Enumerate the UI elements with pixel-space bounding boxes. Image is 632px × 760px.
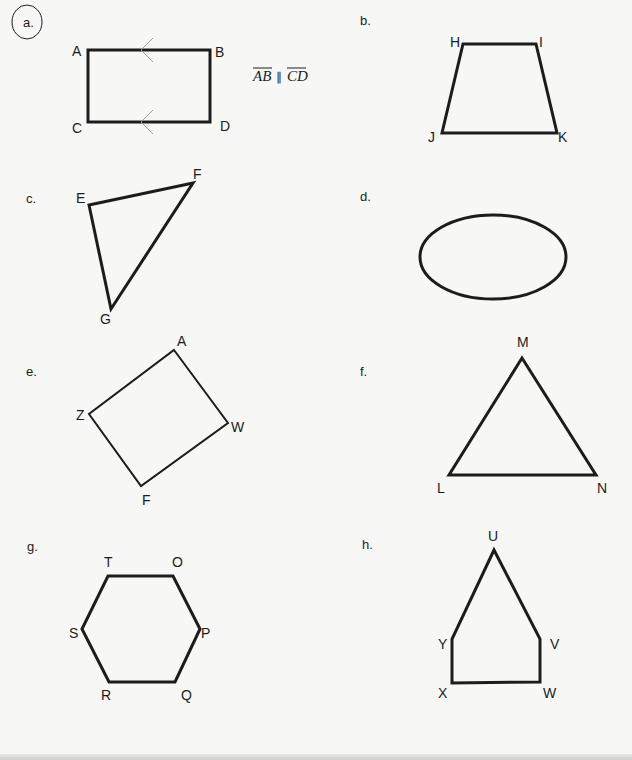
item-h: h. U V W X Y (362, 528, 560, 701)
item-g: g. T O P Q R S (27, 539, 210, 703)
vertex-label: X (438, 685, 448, 701)
quadrilateral-awfz (89, 350, 228, 486)
worksheet: a. A B C D AB ∥ CD b. H I J K c. E F G d… (0, 0, 632, 760)
item-label-g: g. (27, 539, 38, 554)
item-label-b: b. (360, 13, 371, 28)
item-label-e: e. (26, 364, 37, 379)
vertex-label: J (428, 129, 435, 145)
vertex-label: A (177, 333, 187, 349)
triangle-mln (449, 358, 596, 475)
vertex-label: O (172, 554, 183, 570)
item-b: b. H I J K (360, 13, 568, 145)
vertex-label: L (437, 480, 445, 496)
vertex-label: S (69, 625, 78, 641)
vertex-label: Q (181, 687, 192, 703)
hexagon-topqrs (82, 576, 200, 682)
triangle-efg (89, 183, 193, 309)
vertex-label: Z (76, 407, 85, 423)
item-a: a. A B C D AB ∥ CD (12, 5, 308, 136)
item-label-h: h. (362, 537, 373, 552)
vertex-label: F (193, 166, 202, 182)
parallel-notation: AB ∥ CD (252, 68, 308, 84)
vertex-label: A (72, 43, 82, 59)
vertex-label: H (450, 34, 460, 50)
vertex-label: Y (438, 636, 448, 652)
trapezoid-hijk (442, 44, 557, 133)
item-e: e. A W F Z (26, 333, 245, 508)
pentagon-uvwxy (452, 550, 540, 683)
item-d: d. (360, 189, 566, 299)
vertex-label: P (201, 625, 210, 641)
segment-ab: AB (252, 68, 271, 84)
segment-cd: CD (287, 68, 308, 84)
vertex-label: C (72, 120, 82, 136)
vertex-label: F (142, 492, 151, 508)
vertex-label: B (215, 44, 224, 60)
vertex-label: I (539, 34, 543, 50)
vertex-label: T (104, 554, 113, 570)
rectangle-abcd (88, 50, 210, 122)
item-f: f. M L N (360, 334, 607, 496)
vertex-label: E (76, 190, 85, 206)
vertex-label: W (231, 419, 245, 435)
vertex-label: V (550, 636, 560, 652)
item-label-a: a. (23, 15, 34, 30)
shapes-canvas: a. A B C D AB ∥ CD b. H I J K c. E F G d… (0, 0, 632, 760)
ellipse (420, 215, 566, 299)
vertex-label: N (597, 480, 607, 496)
item-label-c: c. (26, 191, 36, 206)
vertex-label: M (517, 334, 529, 350)
parallel-symbol: ∥ (276, 70, 282, 84)
vertex-label: U (488, 528, 498, 544)
vertex-label: W (543, 685, 557, 701)
item-label-d: d. (360, 189, 371, 204)
vertex-label: D (220, 118, 230, 134)
vertex-label: G (100, 311, 111, 327)
item-label-f: f. (360, 364, 367, 379)
item-c: c. E F G (26, 166, 202, 327)
page-bottom-edge (0, 754, 632, 760)
vertex-label: K (558, 129, 568, 145)
vertex-label: R (101, 687, 111, 703)
